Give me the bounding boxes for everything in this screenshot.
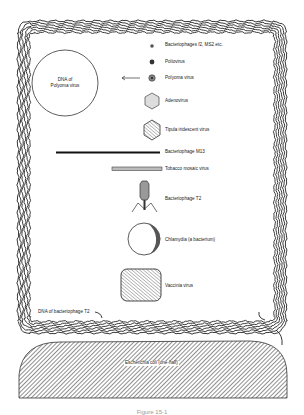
label-polyoma: Polyoma virus <box>165 76 194 81</box>
tmv-rod <box>112 167 162 171</box>
polyoma-virus-icon <box>149 75 155 81</box>
label-adenovirus: Adenovirus <box>165 99 188 104</box>
arrow-icon <box>122 76 140 80</box>
label-t2: Bacteriophage T2 <box>165 197 201 202</box>
poliovirus-icon <box>150 60 155 65</box>
ecoli-body <box>19 341 287 398</box>
label-polyoma-dna-1: DNA of <box>45 78 85 83</box>
label-tipula: Tipula iridescent virus <box>165 128 209 133</box>
label-polyoma-dna-2: Polyoma virus <box>40 84 90 89</box>
figure-caption: Figure 15-1 <box>127 409 177 415</box>
ms2-icon <box>150 44 154 48</box>
vaccinia-icon <box>121 269 161 301</box>
label-tmv: Tobacco mosaic virus <box>165 167 209 172</box>
dna-strand-end <box>259 312 265 320</box>
m13-filament <box>56 152 160 154</box>
t2-phage-icon <box>132 181 157 212</box>
adenovirus-icon <box>145 93 159 109</box>
dna-strand-end <box>276 330 282 345</box>
label-vaccinia: Vaccinia virus <box>165 284 193 289</box>
chlamydia-icon <box>128 223 160 255</box>
label-m13: Bacteriophage M13 <box>165 150 205 155</box>
label-chlamydia: Chlamydia (a bacterium) <box>165 238 215 243</box>
label-ms2: Bacteriophages f2, MS2 etc. <box>165 43 223 48</box>
t2-dna-pointer <box>95 312 102 318</box>
label-poliovirus: Poliovirus <box>165 60 185 65</box>
virus-size-diagram <box>0 0 304 415</box>
tipula-virus-icon <box>144 120 160 140</box>
label-t2-dna: DNA of bacteriophage T2 <box>37 310 91 315</box>
label-ecoli: Escherichia coli (one-half) <box>124 361 179 366</box>
